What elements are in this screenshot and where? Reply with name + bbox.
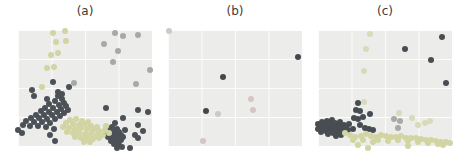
scatter-point xyxy=(115,48,121,54)
scatter-point xyxy=(51,126,57,132)
scatter-point xyxy=(350,126,356,132)
scatter-point xyxy=(20,122,26,128)
scatter-point xyxy=(402,46,408,52)
scatter-point xyxy=(396,110,402,116)
scatter-point xyxy=(27,123,33,129)
scatter-point xyxy=(62,28,68,34)
scatter-point xyxy=(295,54,301,60)
scatter-point xyxy=(35,123,41,129)
scatter-point xyxy=(135,32,141,38)
scatter-point xyxy=(120,33,126,39)
panel-label-a: (a) xyxy=(18,4,152,18)
scatter-panel-a xyxy=(18,30,152,146)
scatter-point xyxy=(250,107,256,113)
scatter-point xyxy=(405,143,411,149)
scatter-point xyxy=(220,74,226,80)
scatter-point xyxy=(215,111,221,117)
scatter-point xyxy=(415,122,421,128)
scatter-point xyxy=(96,135,102,141)
scatter-point xyxy=(360,137,366,143)
scatter-point xyxy=(203,108,209,114)
scatter-point xyxy=(52,138,58,144)
scatter-point xyxy=(119,144,125,150)
scatter-point xyxy=(50,79,56,85)
scatter-point xyxy=(147,67,153,73)
scatter-point xyxy=(127,145,133,151)
scatter-point xyxy=(50,30,56,36)
scatter-point xyxy=(355,142,361,148)
scatter-point xyxy=(361,68,367,74)
scatter-point xyxy=(135,135,141,141)
scatter-point xyxy=(427,118,433,124)
scatter-point xyxy=(31,93,37,99)
scatter-point xyxy=(103,123,109,129)
scatter-point xyxy=(428,57,434,63)
scatter-point xyxy=(440,142,446,148)
scatter-point xyxy=(101,41,107,47)
scatter-point xyxy=(135,122,141,128)
scatter-point xyxy=(360,114,366,120)
scatter-point xyxy=(63,38,69,44)
panel-label-b: (b) xyxy=(168,4,302,18)
scatter-point xyxy=(447,140,453,146)
scatter-point xyxy=(367,31,373,37)
scatter-point xyxy=(51,64,57,70)
scatter-point xyxy=(112,30,118,36)
scatter-point xyxy=(53,39,59,45)
scatter-point xyxy=(103,105,109,111)
scatter-point xyxy=(133,81,139,87)
scatter-point xyxy=(106,130,112,136)
scatter-point xyxy=(443,80,449,86)
scatter-point xyxy=(361,99,367,105)
scatter-point xyxy=(44,65,50,71)
scatter-point xyxy=(395,125,401,131)
scatter-point xyxy=(200,138,206,144)
scatter-point xyxy=(385,138,391,144)
scatter-point xyxy=(367,111,373,117)
scatter-point xyxy=(47,132,53,138)
scatter-point xyxy=(110,59,116,65)
scatter-panel-c xyxy=(318,30,452,146)
scatter-point xyxy=(370,139,376,145)
panel-label-c: (c) xyxy=(318,4,452,18)
scatter-point xyxy=(19,130,25,136)
scatter-point xyxy=(439,34,445,40)
scatter-point xyxy=(43,124,49,130)
scatter-point xyxy=(120,115,126,121)
scatter-point xyxy=(145,109,151,115)
scatter-point xyxy=(135,107,141,113)
scatter-point xyxy=(363,46,369,52)
scatter-point xyxy=(55,50,61,56)
scatter-point xyxy=(395,137,401,143)
scatter-point xyxy=(397,118,403,124)
scatter-point xyxy=(415,139,421,145)
scatter-point xyxy=(425,140,431,146)
scatter-point xyxy=(39,84,45,90)
scatter-point xyxy=(87,139,93,145)
scatter-point xyxy=(166,28,172,34)
scatter-point xyxy=(140,128,146,134)
scatter-point xyxy=(357,122,363,128)
scatter-point xyxy=(409,115,415,121)
scatter-point xyxy=(52,116,58,122)
scatter-point xyxy=(315,126,321,132)
scatter-point xyxy=(365,145,371,151)
scatter-panel-b xyxy=(168,30,302,146)
scatter-point xyxy=(48,52,54,58)
scatter-point xyxy=(248,96,254,102)
scatter-point xyxy=(71,80,77,86)
